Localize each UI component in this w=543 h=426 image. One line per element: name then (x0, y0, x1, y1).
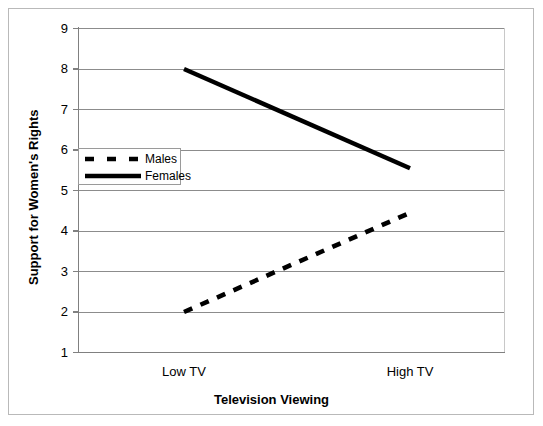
x-tick-label-low-tv: Low TV (134, 365, 234, 378)
y-tick-label: 6 (48, 143, 68, 156)
chart-figure: 9 8 7 6 5 4 3 2 1 Low TV High TV Support… (0, 0, 543, 426)
x-axis-title: Television Viewing (0, 392, 543, 407)
y-tick-label: 1 (48, 346, 68, 359)
y-tick-label: 3 (48, 265, 68, 278)
y-tick-label: 5 (48, 184, 68, 197)
y-tick-label: 8 (48, 62, 68, 75)
legend-item-males: Males (79, 150, 182, 168)
x-tick-label-high-tv: High TV (360, 365, 460, 378)
y-tick-label: 7 (48, 103, 68, 116)
legend-swatch-dashed (83, 150, 143, 168)
series-line-males (184, 213, 410, 312)
plot-canvas (0, 0, 543, 426)
legend-label-females: Females (145, 167, 191, 185)
chart-legend: Males Females (78, 148, 181, 185)
legend-item-females: Females (79, 167, 182, 185)
y-tick-label: 2 (48, 305, 68, 318)
y-tick-label: 9 (48, 22, 68, 35)
y-axis-title: Support for Women's Rights (26, 110, 41, 285)
y-tick-marks (73, 29, 78, 353)
series-line-females (184, 69, 410, 168)
y-tick-label: 4 (48, 224, 68, 237)
legend-swatch-solid (83, 167, 143, 185)
legend-label-males: Males (145, 150, 177, 168)
